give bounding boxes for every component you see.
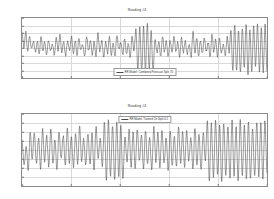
- legend-bottom[interactable]: RR Model: Trained On Split 0.5: [118, 116, 171, 123]
- legend-top[interactable]: RR Model: Combined Forecast Split 70: [113, 68, 176, 75]
- plot-title-top: Reading #4: [0, 8, 274, 12]
- y-axis-tick-mark: [22, 132, 24, 133]
- legend-label-bottom: RR Model: Trained On Split 0.5: [129, 117, 168, 121]
- legend-line-swatch-icon: [121, 119, 128, 120]
- x-axis-tick-mark: [218, 76, 219, 78]
- y-axis-tick-mark: [22, 70, 24, 71]
- x-axis-tick-mark: [267, 76, 268, 78]
- plot-title-bottom: Reading #4: [0, 104, 274, 108]
- y-axis-tick-mark: [22, 18, 24, 19]
- x-axis-tick-mark: [169, 184, 170, 186]
- y-axis-tick-mark: [22, 25, 24, 26]
- x-axis-tick-mark: [120, 76, 121, 78]
- x-axis-tick-mark: [218, 184, 219, 186]
- subplot-top: Reading #4 -4-3-2-101234 010002000300040…: [0, 0, 274, 99]
- y-axis-tick-mark: [22, 159, 24, 160]
- figure-canvas: Reading #4 -4-3-2-101234 010002000300040…: [0, 0, 274, 199]
- y-axis-tick-mark: [22, 55, 24, 56]
- y-axis-tick-mark: [22, 150, 24, 151]
- x-axis-tick-mark: [71, 184, 72, 186]
- y-axis-tick-mark: [22, 177, 24, 178]
- x-axis-tick-mark: [267, 184, 268, 186]
- y-axis-tick-mark: [22, 48, 24, 49]
- plot-area-bottom: -4-3-2-101234 010002000300040005000 RR M…: [21, 113, 268, 187]
- y-axis-tick-mark: [22, 40, 24, 41]
- legend-line-swatch-icon: [116, 72, 123, 73]
- plot-area-top: -4-3-2-101234 010002000300040005000 RR M…: [21, 17, 268, 79]
- y-axis-tick-mark: [22, 114, 24, 115]
- y-axis-tick-mark: [22, 141, 24, 142]
- x-axis-tick-mark: [22, 76, 23, 78]
- y-axis-tick-mark: [22, 168, 24, 169]
- x-axis-tick-mark: [169, 76, 170, 78]
- legend-label-top: RR Model: Combined Forecast Split 70: [124, 70, 173, 74]
- x-axis-tick-mark: [22, 184, 23, 186]
- subplot-bottom: Reading #4 -4-3-2-101234 010002000300040…: [0, 99, 274, 199]
- signal-trace-bottom: [22, 114, 267, 186]
- y-axis-tick-mark: [22, 63, 24, 64]
- y-axis-tick-mark: [22, 33, 24, 34]
- x-axis-tick-mark: [71, 76, 72, 78]
- y-axis-tick-mark: [22, 123, 24, 124]
- x-axis-tick-mark: [120, 184, 121, 186]
